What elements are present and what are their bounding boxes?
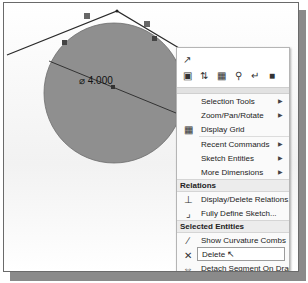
curvature-icon: ∕	[181, 234, 195, 246]
section-view-icon[interactable]: ⇅	[198, 69, 210, 81]
menu-item-delete[interactable]: ✕ Delete ↖	[197, 247, 285, 261]
submenu-arrow-icon: ▶	[278, 97, 283, 104]
menu-item-label: Display/Delete Relations...	[201, 195, 290, 204]
constraint-glyph-icon	[62, 40, 67, 45]
fully-define-icon: ⌟	[181, 207, 195, 219]
menu-item-more-dimensions[interactable]: More Dimensions ▶	[177, 165, 289, 179]
view-orientation-icon[interactable]: ▣	[181, 69, 193, 81]
menu-item-label: Delete	[202, 250, 225, 259]
menu-item-label: Recent Commands	[201, 140, 269, 149]
menu-item-show-curvature-combs[interactable]: ∕ Show Curvature Combs	[177, 233, 289, 247]
menu-item-recent-commands[interactable]: Recent Commands ▶	[177, 137, 289, 151]
submenu-arrow-icon: ▶	[278, 140, 283, 147]
diameter-dimension-label[interactable]: ⌀ 4.000	[79, 75, 113, 86]
graphics-area[interactable]: ⌀ 4.000 ↗ ▣ ⇅ ▦ ⚲ ↵ ■ Selection Tools ▶ …	[3, 2, 299, 272]
section-header-selected-entities: Selected Entities	[177, 220, 289, 233]
context-toolbar: ↗ ▣ ⇅ ▦ ⚲ ↵ ■	[177, 48, 289, 88]
menu-item-label: Detach Segment On Drag	[201, 264, 290, 273]
menu-item-label: Show Curvature Combs	[201, 236, 286, 245]
grid-icon: ▦	[181, 123, 195, 135]
submenu-arrow-icon: ▶	[278, 154, 283, 161]
menu-item-label: Fully Define Sketch...	[201, 209, 277, 218]
display-style-icon[interactable]: ■	[266, 69, 278, 81]
submenu-arrow-icon: ▶	[278, 168, 283, 175]
context-menu: ↗ ▣ ⇅ ▦ ⚲ ↵ ■ Selection Tools ▶ Zoom/Pan…	[176, 47, 290, 272]
menu-item-selection-tools[interactable]: Selection Tools ▶	[177, 94, 289, 108]
detach-icon: ⇔	[181, 262, 195, 272]
submenu-arrow-icon: ▶	[278, 111, 283, 118]
delete-icon: ✕	[181, 249, 195, 261]
annotation-icon[interactable]: ▦	[215, 69, 227, 81]
menu-item-label: Zoom/Pan/Rotate	[201, 111, 264, 120]
menu-item-detach-segment[interactable]: ⇔ Detach Segment On Drag	[177, 261, 289, 272]
smart-dimension-icon[interactable]: ↗	[181, 53, 193, 65]
mouse-cursor-icon: ↖	[227, 249, 235, 259]
menu-item-label: Selection Tools	[201, 97, 255, 106]
menu-item-display-delete-relations[interactable]: ⊥ Display/Delete Relations...	[177, 192, 289, 206]
section-header-relations: Relations	[177, 179, 289, 192]
relations-icon: ⊥	[181, 193, 195, 205]
tangent-relation-icon	[84, 13, 90, 19]
menu-item-zoom-pan-rotate[interactable]: Zoom/Pan/Rotate ▶	[177, 108, 289, 122]
menu-item-fully-define-sketch[interactable]: ⌟ Fully Define Sketch...	[177, 206, 289, 220]
tangent-relation-icon	[144, 21, 150, 27]
menu-item-label: Sketch Entities	[201, 154, 254, 163]
menu-item-label: More Dimensions	[201, 168, 263, 177]
menu-item-label: Display Grid	[201, 125, 245, 134]
sketch-point[interactable]	[116, 10, 119, 13]
menu-item-display-grid[interactable]: ▦ Display Grid	[177, 122, 289, 136]
sketch-icon[interactable]: ↵	[249, 69, 261, 81]
zoom-icon[interactable]: ⚲	[232, 69, 244, 81]
constraint-glyph-icon	[152, 36, 157, 41]
menu-item-sketch-entities[interactable]: Sketch Entities ▶	[177, 151, 289, 165]
